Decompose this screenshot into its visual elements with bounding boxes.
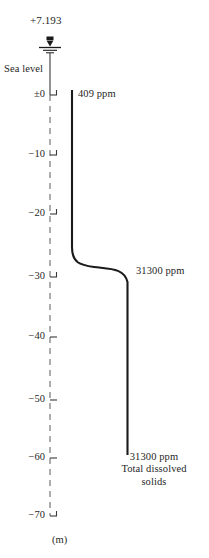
axis-tick-label-minus40: −40 [10,330,45,341]
axis-tick-label-0: ±0 [10,88,45,99]
bottom-caption-line-2: solids [141,476,166,487]
bottom-concentration-value: 31300 ppm [130,451,178,462]
axis-tick-label-minus10: −10 [10,148,45,159]
bottom-caption-line-1: Total dissolved [121,463,186,474]
axis-tick-label-minus20: −20 [10,207,45,218]
tds-profile-curve [72,90,128,455]
axis-tick-label-minus60: −60 [10,451,45,462]
mid-concentration-label: 31300 ppm [136,265,184,277]
water-table-icon [39,37,61,53]
sea-level-label: Sea level [4,63,43,75]
axis-tick-label-minus70: −70 [10,509,45,520]
top-concentration-label: 409 ppm [78,88,116,100]
axis-ticks [50,95,57,516]
axis-tick-label-minus30: −30 [10,270,45,281]
groundwater-tds-profile-figure: +7.193 Sea level 409 ppm 31300 ppm 31300… [0,0,209,558]
head-elevation-label: +7.193 [30,14,62,27]
axis-unit-label: (m) [52,534,67,546]
bottom-concentration-caption: 31300 ppm Total dissolved solids [104,451,204,488]
axis-tick-label-minus50: −50 [10,393,45,404]
